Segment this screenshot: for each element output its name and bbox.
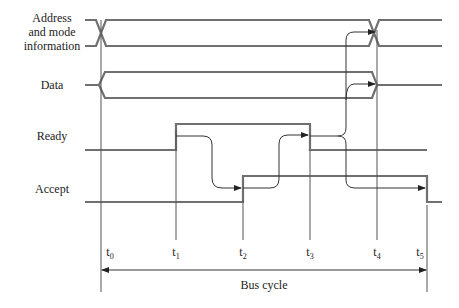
- waveform-data: [85, 72, 442, 98]
- signal-label-accept: Accept: [35, 182, 70, 196]
- timing-diagram: Address and mode information Data Ready …: [0, 0, 459, 308]
- signal-label-address: Address and mode information: [24, 11, 81, 53]
- time-marker-t3: t3: [306, 245, 313, 261]
- time-marker-t4: t4: [373, 245, 380, 261]
- waveform-address: [85, 20, 442, 46]
- signal-label-data: Data: [41, 78, 64, 92]
- waveform-accept: [85, 176, 442, 202]
- waveform-ready: [85, 124, 427, 150]
- svg-text:and mode: and mode: [29, 25, 76, 39]
- svg-text:Address: Address: [32, 11, 72, 25]
- causal-arrows: [176, 32, 425, 188]
- time-markers: t0 t1 t2 t3 t4 t5: [106, 245, 423, 261]
- time-marker-t0: t0: [106, 245, 113, 261]
- svg-text:information: information: [24, 39, 81, 53]
- bus-cycle-label: Bus cycle: [241, 278, 288, 292]
- time-marker-t1: t1: [172, 245, 179, 261]
- time-marker-t2: t2: [239, 245, 246, 261]
- signal-label-ready: Ready: [37, 129, 68, 143]
- time-marker-t5: t5: [416, 245, 423, 261]
